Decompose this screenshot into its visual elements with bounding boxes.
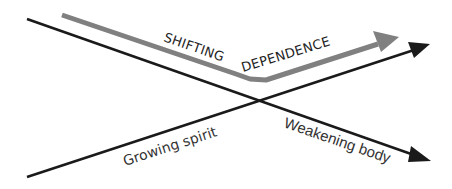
crossing-lines-diagram: SHIFTING DEPENDENCE Growing spirit Weake… xyxy=(0,0,452,189)
black-arrowhead-up-icon xyxy=(408,42,430,58)
black-arrowhead-down-icon xyxy=(408,146,431,162)
weakening-body-label: Weakening body xyxy=(282,114,393,167)
dependence-label: DEPENDENCE xyxy=(239,34,332,75)
gray-arrowhead-icon xyxy=(373,31,399,52)
weakening-body-line xyxy=(27,19,431,162)
